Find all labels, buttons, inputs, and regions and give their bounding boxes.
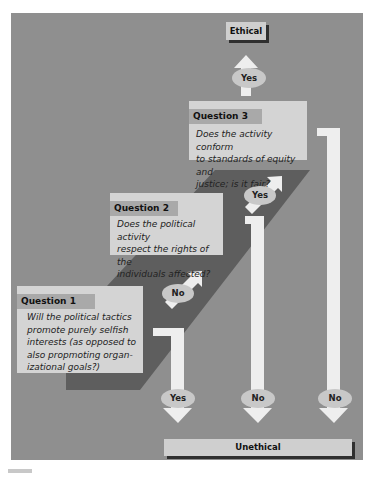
question-3-label: Question 3 <box>189 109 262 124</box>
question-2-label: Question 2 <box>110 201 178 216</box>
text-line: Does the activity conform <box>196 128 307 153</box>
text-line: to standards of equity and <box>196 153 307 178</box>
edge-label-q3-no: No <box>318 389 352 408</box>
question-1-label: Question 1 <box>17 294 95 309</box>
text-line: interests (as opposed to <box>27 336 136 349</box>
arrow-q3-no-down <box>317 128 348 423</box>
edge-label-q1-no: No <box>162 284 194 303</box>
outcome-unethical-label: Unethical <box>235 442 280 452</box>
question-1-text: Will the political tactics promote purel… <box>27 311 136 374</box>
edge-label-q1-yes: Yes <box>161 389 195 408</box>
question-1-box: Question 1 Will the political tactics pr… <box>17 286 143 373</box>
edge-label-q2-yes: Yes <box>244 186 276 205</box>
question-2-text: Does the political activity respect the … <box>117 218 223 281</box>
text-line: respect the rights of the <box>117 243 223 268</box>
outcome-unethical: Unethical <box>164 439 352 456</box>
question-3-text: Does the activity conform to standards o… <box>196 128 307 191</box>
edge-label-q3-yes: Yes <box>232 68 266 88</box>
text-line: promote purely selfish <box>27 324 136 337</box>
edge-label-q2-no: No <box>241 389 275 408</box>
text-line: Does the political activity <box>117 218 223 243</box>
text-line: Will the political tactics <box>27 311 136 324</box>
outcome-ethical-label: Ethical <box>230 26 263 36</box>
text-line: izational goals?) <box>27 361 136 374</box>
question-2-box: Question 2 Does the political activity r… <box>110 193 223 255</box>
question-3-box: Question 3 Does the activity conform to … <box>189 101 307 160</box>
text-line: also propmoting organ- <box>27 349 136 362</box>
text-line: individuals affected? <box>117 268 223 281</box>
outcome-ethical: Ethical <box>226 22 266 40</box>
corner-mark <box>8 469 32 473</box>
